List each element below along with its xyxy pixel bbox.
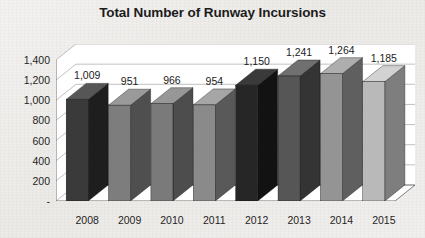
runway-incursions-bar-chart: Total Number of Runway Incursions 1,4001… [0, 0, 425, 238]
y-axis: 1,4001,2001,000800600400200- [2, 44, 50, 201]
plot-area [56, 44, 415, 201]
bar-value-label-2013: 1,241 [277, 47, 321, 58]
y-tick-label: 1,400 [4, 55, 50, 65]
plot-svg [56, 44, 415, 201]
x-tick-label-2009: 2009 [110, 214, 150, 226]
bar-2012 [236, 69, 278, 201]
y-tick-label: 1,200 [4, 75, 50, 85]
x-tick-label-2015: 2015 [364, 214, 404, 226]
bar-value-label-2014: 1,264 [319, 45, 363, 56]
bar-2008 [66, 83, 108, 201]
y-tick-label: 600 [4, 136, 50, 146]
bar-2013 [278, 60, 320, 201]
bar-value-label-2009: 951 [108, 76, 152, 87]
x-tick-label-2011: 2011 [194, 214, 234, 226]
y-tick-label: 400 [4, 156, 50, 166]
bar-value-label-2011: 954 [192, 76, 236, 87]
y-tick-label: 1,000 [4, 95, 50, 105]
x-tick-label-2014: 2014 [321, 214, 361, 226]
y-tick-label: 200 [4, 176, 50, 186]
bar-2009 [109, 89, 151, 201]
y-tick-label: 800 [4, 115, 50, 125]
bar-value-label-2010: 966 [150, 75, 194, 86]
chart-title: Total Number of Runway Incursions [0, 5, 425, 20]
bar-2011 [193, 89, 235, 201]
x-axis: 20082009201020112012201320142015 [0, 214, 425, 230]
bar-value-label-2008: 1,009 [65, 70, 109, 81]
bar-2014 [320, 58, 362, 201]
x-tick-label-2012: 2012 [237, 214, 277, 226]
bar-2010 [151, 88, 193, 201]
y-tick-label: - [4, 196, 50, 206]
bar-value-label-2015: 1,185 [362, 53, 406, 64]
x-tick-label-2013: 2013 [279, 214, 319, 226]
bar-2015 [363, 66, 405, 201]
bar-value-label-2012: 1,150 [235, 56, 279, 67]
x-tick-label-2010: 2010 [152, 214, 192, 226]
x-tick-label-2008: 2008 [67, 214, 107, 226]
